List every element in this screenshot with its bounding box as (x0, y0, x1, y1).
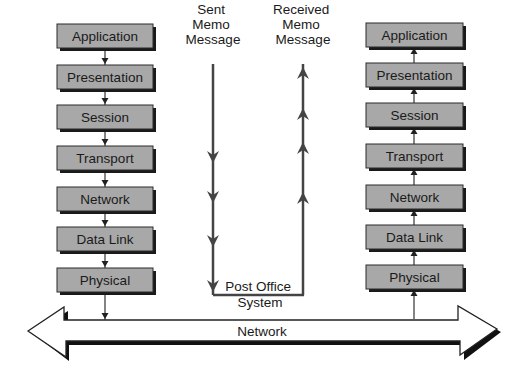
arrow-down-icon (102, 261, 109, 267)
left-layer-network: Network (57, 187, 156, 214)
layer-label: Transport (76, 151, 134, 166)
layer-label: Network (80, 192, 130, 207)
right-layer-physical: Physical (366, 265, 466, 292)
right-layer-transport: Transport (366, 144, 466, 171)
right-layer-application: Application (366, 23, 466, 50)
arrow-down-icon (102, 180, 109, 186)
right-layer-presentation: Presentation (366, 63, 466, 90)
received-memo-line-1: Received (273, 2, 329, 17)
received-memo-line-3: Message (276, 32, 331, 47)
left-layer-data-link: Data Link (57, 227, 156, 254)
arrow-down-icon (102, 313, 109, 319)
network-arrow-label: Network (237, 324, 287, 339)
network-double-arrow: Network (28, 306, 501, 361)
layer-label: Application (72, 29, 138, 44)
right-layer-session: Session (366, 103, 466, 130)
layer-label: Application (381, 28, 447, 43)
arrow-down-icon (102, 58, 109, 64)
right-layer-data-link: Data Link (366, 225, 466, 252)
sent-memo-line-3: Message (186, 32, 241, 47)
left-layer-application: Application (57, 24, 156, 51)
layer-label: Data Link (386, 230, 443, 245)
left-layer-session: Session (57, 105, 156, 132)
layer-label: Network (390, 190, 440, 205)
left-layer-transport: Transport (57, 146, 156, 173)
post-office-line-1: Post Office (225, 279, 291, 294)
arrow-down-icon (102, 98, 109, 104)
right-layer-network: Network (366, 185, 466, 212)
sent-memo-line-1: Sent (197, 2, 225, 17)
layer-label: Session (81, 110, 129, 125)
receiver-osi-stack: ApplicationPresentationSessionTransportN… (366, 23, 466, 319)
osi-diagram: Network Sent Memo Message Received Memo … (0, 0, 521, 374)
arrow-down-icon (102, 139, 109, 145)
layer-label: Data Link (76, 232, 133, 247)
layer-label: Presentation (67, 70, 143, 85)
left-layer-presentation: Presentation (57, 65, 156, 92)
post-office-line-2: System (237, 295, 282, 310)
layer-label: Physical (80, 273, 130, 288)
layer-label: Session (390, 108, 438, 123)
arrow-down-icon (102, 220, 109, 226)
sent-memo-label: Sent Memo Message (186, 2, 241, 47)
sent-memo-line-2: Memo (192, 17, 230, 32)
sender-osi-stack: ApplicationPresentationSessionTransportN… (57, 24, 156, 320)
layer-label: Presentation (377, 68, 453, 83)
layer-label: Transport (386, 149, 444, 164)
received-memo-label: Received Memo Message (273, 2, 333, 47)
post-office-path: Sent Memo Message Received Memo Message … (186, 2, 333, 310)
left-layer-physical: Physical (57, 268, 156, 295)
received-memo-line-2: Memo (282, 17, 320, 32)
layer-label: Physical (389, 270, 439, 285)
